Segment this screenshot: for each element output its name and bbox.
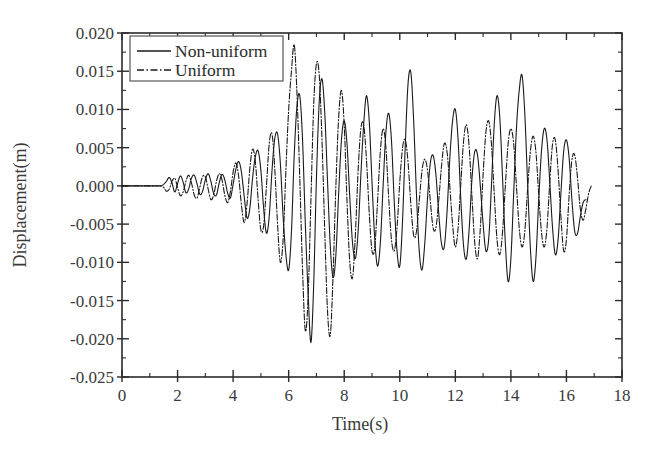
y-tick-label: -0.025 <box>44 369 114 386</box>
plot-frame <box>122 33 622 377</box>
legend-label-non-uniform: Non-uniform <box>175 41 268 61</box>
x-tick-label: 16 <box>552 387 580 404</box>
x-tick-label: 2 <box>164 387 192 404</box>
y-tick-label: 0.015 <box>44 63 114 80</box>
x-tick-label: 18 <box>608 387 636 404</box>
y-tick-label: 0.010 <box>44 101 114 118</box>
legend-label-uniform: Uniform <box>175 60 236 80</box>
x-tick-label: 0 <box>108 387 136 404</box>
y-axis-title: Displacement(m) <box>10 143 31 268</box>
x-tick-label: 14 <box>497 387 525 404</box>
y-tick-label: 0.005 <box>44 140 114 157</box>
y-tick-label: 0.020 <box>44 25 114 42</box>
y-tick-label: -0.010 <box>44 254 114 271</box>
y-tick-label: 0.000 <box>44 178 114 195</box>
y-tick-label: -0.020 <box>44 331 114 348</box>
y-tick-label: -0.005 <box>44 216 114 233</box>
chart-figure: Non-uniform Uniform Displacement(m) 0246… <box>0 0 656 458</box>
x-tick-label: 4 <box>219 387 247 404</box>
x-tick-label: 6 <box>275 387 303 404</box>
x-axis-title: Time(s) <box>332 414 388 435</box>
y-tick-label: -0.015 <box>44 293 114 310</box>
chart-legend: Non-uniform Uniform <box>130 36 283 81</box>
x-tick-label: 10 <box>386 387 414 404</box>
x-tick-label: 8 <box>330 387 358 404</box>
x-tick-label: 12 <box>441 387 469 404</box>
